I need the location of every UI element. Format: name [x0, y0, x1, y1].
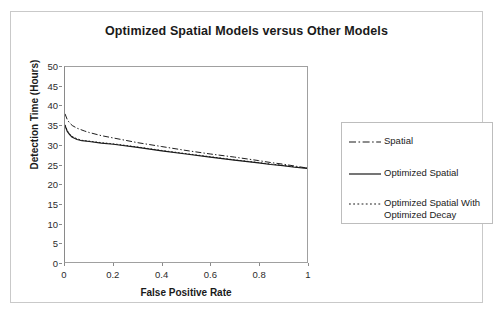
y-axis-tick-label: 5: [53, 238, 58, 249]
y-axis-tick-mark: [59, 125, 62, 126]
x-axis-tick-label: 0: [61, 269, 66, 280]
x-axis-tick-mark: [259, 263, 260, 266]
x-axis-tick-label: 0.8: [253, 269, 266, 280]
x-axis-tick-mark: [162, 263, 163, 266]
x-axis-tick-label: 0.2: [106, 269, 119, 280]
legend-entry-spatial: Spatial: [348, 135, 492, 147]
legend-entry-optimized-spatial-decay: Optimized Spatial With Optimized Decay: [348, 197, 492, 220]
y-axis-tick-label: 0: [53, 258, 58, 269]
y-axis-tick-label: 30: [47, 139, 58, 150]
y-axis-tick-label: 15: [47, 198, 58, 209]
series-line: [65, 125, 307, 168]
figure-caption: [18, 312, 478, 323]
chart-frame: Optimized Spatial Models versus Other Mo…: [10, 11, 483, 303]
series-line: [65, 114, 307, 168]
series-line: [65, 126, 307, 169]
y-axis-tick-mark: [59, 86, 62, 87]
legend-label: Optimized Spatial With Optimized Decay: [382, 197, 492, 220]
legend-entry-optimized-spatial: Optimized Spatial: [348, 167, 492, 179]
x-axis-tick-mark: [113, 263, 114, 266]
legend-swatch-dash-dot-icon: [348, 137, 382, 147]
x-axis-tick-mark: [210, 263, 211, 266]
x-axis-title: False Positive Rate: [64, 287, 308, 298]
y-axis-tick-label: 40: [47, 100, 58, 111]
y-axis-tick-mark: [59, 145, 62, 146]
y-axis-tick-label: 35: [47, 120, 58, 131]
x-axis-tick-label: 1: [305, 269, 310, 280]
y-axis-tick-label: 50: [47, 61, 58, 72]
y-axis-tick-mark: [59, 224, 62, 225]
y-axis-tick-mark: [59, 263, 62, 264]
x-axis-tick-label: 0.6: [204, 269, 217, 280]
y-axis-tick-label: 45: [47, 80, 58, 91]
x-axis-tick-mark: [64, 263, 65, 266]
y-axis-tick-label: 25: [47, 159, 58, 170]
y-axis-title: Detection Time (Hours): [29, 50, 40, 180]
x-axis-tick-label: 0.4: [155, 269, 168, 280]
figure-root: Optimized Spatial Models versus Other Mo…: [0, 0, 495, 325]
legend-label: Optimized Spatial: [382, 167, 458, 179]
y-axis-tick-mark: [59, 105, 62, 106]
plot-svg: [65, 67, 307, 262]
y-axis-tick-label: 20: [47, 179, 58, 190]
plot-area: [64, 66, 308, 263]
x-axis-tick-mark: [308, 263, 309, 266]
y-axis-tick-mark: [59, 243, 62, 244]
y-axis-tick-mark: [59, 165, 62, 166]
y-axis-tick-mark: [59, 184, 62, 185]
legend-swatch-solid-icon: [348, 169, 382, 179]
legend-swatch-dotted-icon: [348, 199, 382, 209]
y-axis-tick-mark: [59, 204, 62, 205]
y-axis-tick-label: 10: [47, 218, 58, 229]
y-axis-tick-mark: [59, 66, 62, 67]
legend-label: Spatial: [382, 135, 413, 147]
chart-title: Optimized Spatial Models versus Other Mo…: [11, 24, 482, 38]
chart-legend: Spatial Optimized Spatial Optimized Spat…: [341, 122, 493, 224]
x-axis-tick-labels: 00.20.40.60.81: [64, 263, 308, 283]
